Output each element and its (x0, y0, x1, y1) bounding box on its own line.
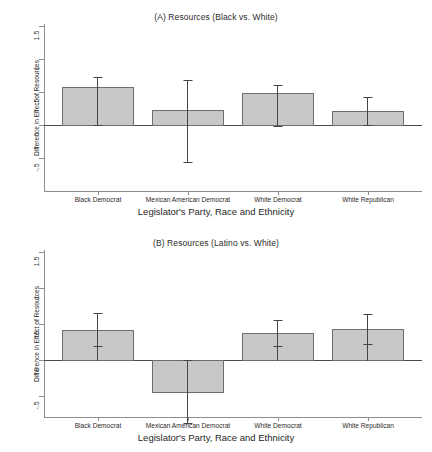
panel-a-ytick-label-3: .5 (33, 91, 40, 113)
errorbar-a-2-cap-low (184, 162, 193, 163)
errorbar-a-4-cap-high (364, 97, 373, 98)
panel-a-xaxis-title: Legislator's Party, Race and Ethnicity (0, 206, 432, 217)
panel-b-ytick-label-4: 0 (33, 359, 40, 381)
bar-a-3 (242, 93, 314, 126)
panel-b: (B) Resources (Latino vs. White) Differe… (0, 226, 432, 452)
errorbar-b-4-line (367, 314, 368, 361)
errorbar-b-3-cap-high (274, 320, 283, 321)
bar-a-2 (152, 110, 224, 126)
errorbar-b-2-line (187, 360, 188, 424)
panel-a-ytick-label-5: -.5 (33, 157, 40, 179)
panel-b-xtick-label-3: White Democrat (254, 422, 301, 429)
panel-a-ytick-label-4: 0 (33, 124, 40, 146)
errorbar-a-1-line (97, 77, 98, 125)
panel-b-ytick-label-2: 1 (33, 287, 40, 309)
errorbar-a-2-cap-high (184, 80, 193, 81)
panel-b-xtick-2 (188, 417, 189, 421)
figure-root: (A) Resources (Black vs. White) Differen… (0, 0, 432, 452)
panel-b-xtick-label-1: Black Democrat (75, 422, 122, 429)
panel-b-ytick-label-1: 1.5 (33, 251, 40, 273)
panel-b-ytick-label-wrap-2: 1 (14, 283, 36, 293)
panel-a-ytick-2 (39, 59, 44, 60)
panel-a-ytick-3 (39, 92, 44, 93)
panel-a-ytick-label-wrap-1: 1.5 (14, 21, 36, 31)
panel-b-xtick-label-4: White Republican (342, 422, 394, 429)
bar-b-4 (332, 329, 404, 361)
panel-b-ytick-1 (39, 252, 44, 253)
panel-a-xtick-label-3: White Democrat (254, 196, 301, 203)
errorbar-a-3-cap-high (274, 85, 283, 86)
errorbar-a-3-line (277, 85, 278, 126)
bar-a-4 (332, 111, 404, 126)
panel-a-ytick-5 (39, 158, 44, 159)
errorbar-a-4-cap-low (364, 125, 373, 126)
panel-a-ytick-label-wrap-4: 0 (14, 120, 36, 130)
errorbar-a-1-cap-low (94, 125, 103, 126)
panel-a-xtick-label-2: Mexican American Democrat (146, 196, 230, 203)
panel-a-xtick-1 (98, 191, 99, 195)
panel-b-ytick-label-wrap-4: 0 (14, 355, 36, 365)
panel-a-x-axis (44, 191, 422, 192)
panel-b-y-axis (44, 250, 45, 418)
errorbar-a-4-line (367, 97, 368, 126)
panel-a-y-axis (44, 24, 45, 192)
panel-b-ytick-label-5: -.5 (33, 395, 40, 417)
panel-a-ytick-label-wrap-3: .5 (14, 87, 36, 97)
panel-a-xtick-label-1: Black Democrat (75, 196, 122, 203)
panel-a-ytick-label-1: 1.5 (33, 25, 40, 47)
errorbar-b-1-line (97, 313, 98, 361)
errorbar-a-2-line (187, 80, 188, 162)
panel-b-ytick-label-wrap-5: -.5 (14, 391, 36, 401)
errorbar-b-3-cap-low (274, 346, 283, 347)
errorbar-b-4-cap-low (364, 344, 373, 345)
panel-a-xtick-4 (368, 191, 369, 195)
panel-a-ylabel-holder: Difference in Effect of Resources (18, 24, 28, 191)
errorbar-a-1-cap-high (94, 77, 103, 78)
errorbar-a-3-cap-low (274, 126, 283, 127)
panel-a-ytick-label-wrap-2: 1 (14, 54, 36, 64)
panel-a: (A) Resources (Black vs. White) Differen… (0, 0, 432, 226)
errorbar-b-1-cap-low (94, 346, 103, 347)
panel-b-xtick-1 (98, 417, 99, 421)
panel-b-title: (B) Resources (Latino vs. White) (0, 238, 432, 248)
panel-b-ytick-3 (39, 324, 44, 325)
panel-b-xtick-3 (278, 417, 279, 421)
panel-a-xtick-2 (188, 191, 189, 195)
panel-a-ytick-1 (39, 26, 44, 27)
errorbar-b-4-cap-high (364, 314, 373, 315)
panel-b-ytick-2 (39, 288, 44, 289)
bar-a-1 (62, 87, 134, 126)
panel-b-ytick-label-wrap-3: .5 (14, 319, 36, 329)
errorbar-b-1-cap-high (94, 313, 103, 314)
bar-b-2 (152, 360, 224, 393)
panel-b-ytick-5 (39, 396, 44, 397)
panel-a-ytick-label-wrap-5: -.5 (14, 153, 36, 163)
errorbar-b-2-cap-high (184, 360, 193, 361)
panel-a-ytick-label-2: 1 (33, 58, 40, 80)
panel-a-xtick-label-4: White Republican (342, 196, 394, 203)
panel-b-ytick-label-3: .5 (33, 323, 40, 345)
panel-b-ytick-label-wrap-1: 1.5 (14, 247, 36, 257)
panel-b-xtick-4 (368, 417, 369, 421)
panel-a-title: (A) Resources (Black vs. White) (0, 12, 432, 22)
panel-a-xtick-3 (278, 191, 279, 195)
panel-b-xtick-label-2: Mexican American Democrat (146, 422, 230, 429)
panel-b-x-axis (44, 417, 422, 418)
bar-b-3 (242, 333, 314, 361)
panel-b-xaxis-title: Legislator's Party, Race and Ethnicity (0, 432, 432, 443)
errorbar-b-3-line (277, 320, 278, 361)
